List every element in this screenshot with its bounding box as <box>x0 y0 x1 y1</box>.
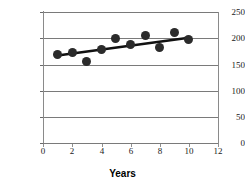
y-tick-mark-150 <box>40 65 43 66</box>
y-tick-label-200: 200 <box>215 34 245 43</box>
x-tick-label-4: 4 <box>92 147 112 156</box>
data-point <box>68 48 77 57</box>
gridline-150 <box>43 65 218 66</box>
chart-container: 250 200 150 100 50 0 0 2 4 6 8 10 12 Yea… <box>0 0 245 190</box>
y-tick-mark-250 <box>40 12 43 13</box>
data-point <box>141 31 150 40</box>
x-tick-label-0: 0 <box>33 147 53 156</box>
gridline-100 <box>43 91 218 92</box>
gridline-50 <box>43 117 218 118</box>
y-tick-label-100: 100 <box>215 87 245 96</box>
x-tick-label-6: 6 <box>121 147 141 156</box>
data-point <box>155 43 164 52</box>
x-tick-label-12: 12 <box>208 147 228 156</box>
y-tick-mark-50 <box>40 117 43 118</box>
y-tick-mark-100 <box>40 91 43 92</box>
x-tick-label-2: 2 <box>62 147 82 156</box>
y-tick-mark-200 <box>40 38 43 39</box>
y-axis-line <box>43 11 44 144</box>
x-tick-label-10: 10 <box>179 147 199 156</box>
data-point <box>126 40 135 49</box>
x-tick-label-8: 8 <box>150 147 170 156</box>
data-point <box>170 28 179 37</box>
y-tick-label-250: 250 <box>215 8 245 17</box>
y-tick-label-50: 50 <box>215 113 245 122</box>
y-tick-label-150: 150 <box>215 61 245 70</box>
gridline-250 <box>43 12 218 13</box>
data-point <box>97 45 106 54</box>
x-axis-title: Years <box>0 168 245 179</box>
plot-area <box>43 12 218 143</box>
plot-right-border <box>218 12 219 144</box>
